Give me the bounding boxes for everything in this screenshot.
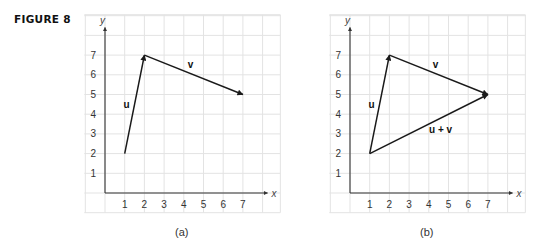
y-axis-label: y xyxy=(344,15,351,26)
grid xyxy=(84,15,280,213)
y-tick-label: 7 xyxy=(335,50,341,61)
x-axis-label: x xyxy=(270,188,277,199)
x-axis-label: x xyxy=(515,188,522,199)
x-tick-label: 5 xyxy=(446,199,452,210)
vector-label-u: u xyxy=(369,99,375,110)
vector-label-v: v xyxy=(188,59,194,70)
x-tick-label: 6 xyxy=(465,199,471,210)
x-tick-label: 7 xyxy=(485,199,491,210)
grid xyxy=(329,15,525,213)
vector-label-u: u xyxy=(124,99,130,110)
x-tick-label: 3 xyxy=(406,199,412,210)
caption-a: (a) xyxy=(175,226,188,238)
y-tick-label: 5 xyxy=(335,89,341,100)
x-tick-label: 4 xyxy=(181,199,187,210)
caption-b: (b) xyxy=(420,226,433,238)
x-tick-label: 2 xyxy=(142,199,148,210)
y-tick-label: 3 xyxy=(335,128,341,139)
y-tick-label: 6 xyxy=(90,69,96,80)
y-tick-label: 3 xyxy=(90,128,96,139)
x-tick-label: 1 xyxy=(122,199,128,210)
y-axis-label: y xyxy=(99,15,106,26)
y-tick-label: 4 xyxy=(335,109,341,120)
y-tick-label: 7 xyxy=(90,50,96,61)
panel-b: xy12345671234567uvu + v xyxy=(329,15,525,213)
y-tick-label: 2 xyxy=(90,148,96,159)
panel-a: xy12345671234567uv xyxy=(84,15,280,213)
y-tick-label: 5 xyxy=(90,89,96,100)
vector-label-v: v xyxy=(433,59,439,70)
x-tick-label: 3 xyxy=(161,199,167,210)
x-tick-label: 2 xyxy=(387,199,393,210)
x-tick-label: 4 xyxy=(426,199,432,210)
x-tick-label: 5 xyxy=(201,199,207,210)
y-tick-label: 1 xyxy=(90,168,96,179)
y-tick-label: 4 xyxy=(90,109,96,120)
y-tick-label: 1 xyxy=(335,168,341,179)
x-tick-label: 6 xyxy=(220,199,226,210)
y-tick-label: 2 xyxy=(335,148,341,159)
x-tick-label: 7 xyxy=(240,199,246,210)
y-tick-label: 6 xyxy=(335,69,341,80)
x-tick-label: 1 xyxy=(367,199,373,210)
figure-canvas: xy12345671234567uv xy12345671234567uvu +… xyxy=(0,0,546,249)
vector-label-u-plus-v: u + v xyxy=(429,124,453,135)
